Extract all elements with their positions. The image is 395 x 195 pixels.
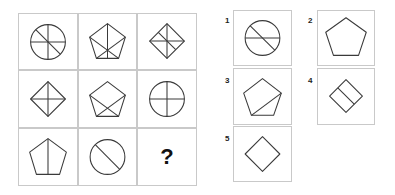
- grid-cell-r1c1: [18, 13, 78, 70]
- pentagon-icon: [318, 11, 374, 65]
- diamond-cross-icon: [19, 71, 77, 127]
- circle-cross-icon: [138, 71, 196, 127]
- grid-cell-r3c3-missing: ?: [137, 128, 197, 186]
- option-3[interactable]: [233, 68, 292, 125]
- question-mark: ?: [138, 144, 196, 170]
- grid-cell-r2c1: [18, 70, 78, 128]
- circle-diagonal-icon: [79, 129, 136, 185]
- diamond-segment-icon: [318, 69, 374, 124]
- option-4-label: 4: [308, 76, 312, 85]
- option-3-label: 3: [225, 76, 229, 85]
- pentagon-crossed-icon: [79, 71, 136, 127]
- grid-cell-r1c2: [78, 13, 137, 70]
- option-1[interactable]: [233, 10, 292, 66]
- diamond-cross-segment-icon: [138, 14, 196, 69]
- option-2-label: 2: [308, 16, 312, 25]
- grid-cell-r2c3: [137, 70, 197, 128]
- grid-cell-r3c2: [78, 128, 137, 186]
- option-1-label: 1: [225, 16, 229, 25]
- pentagon-star-lines-icon: [79, 14, 136, 69]
- circle-quartered-diagonal-icon: [19, 14, 77, 69]
- grid-cell-r2c2: [78, 70, 137, 128]
- pentagon-vertical-icon: [19, 129, 77, 185]
- grid-cell-r3c1: [18, 128, 78, 186]
- option-5[interactable]: [233, 126, 292, 182]
- diamond-icon: [234, 127, 291, 181]
- pentagon-single-diagonal-icon: [234, 69, 291, 124]
- option-5-label: 5: [225, 134, 229, 143]
- option-2[interactable]: [317, 10, 375, 66]
- circle-horizontal-diagonal-icon: [234, 11, 291, 65]
- grid-cell-r1c3: [137, 13, 197, 70]
- option-4[interactable]: [317, 68, 375, 125]
